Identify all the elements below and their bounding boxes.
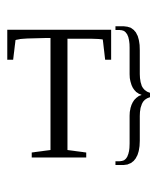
closing-brace-glyph: }	[104, 2, 150, 169]
letter-t-glyph: T	[4, 0, 114, 169]
